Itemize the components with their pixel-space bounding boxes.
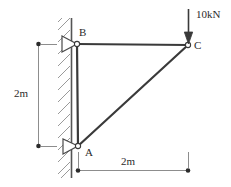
dimension-horizontal-label: 2m xyxy=(121,156,135,167)
load-arrow-10kn xyxy=(184,9,192,44)
truss-diagram-canvas: B C A 10kN 2m 2m xyxy=(0,0,231,187)
load-label: 10kN xyxy=(196,9,220,20)
dimension-vertical-label: 2m xyxy=(14,88,28,99)
dimension-horizontal-dot-right xyxy=(186,168,191,173)
member-diagonal xyxy=(78,45,188,146)
dimension-vertical xyxy=(36,42,57,149)
dimension-vertical-dot-top xyxy=(36,42,41,47)
joint-label-a: A xyxy=(85,147,93,158)
member-top-chord xyxy=(77,44,188,45)
joint-A xyxy=(75,143,80,148)
truss-diagram-svg xyxy=(0,0,231,187)
truss-members xyxy=(77,44,188,146)
joint-B xyxy=(74,41,79,46)
dimension-horizontal-dot-left xyxy=(76,168,81,173)
joint-label-b: B xyxy=(79,27,86,38)
load-arrow-head xyxy=(184,32,192,44)
dimension-vertical-dot-bottom xyxy=(36,144,41,149)
member-vertical xyxy=(77,44,78,146)
joint-label-c: C xyxy=(194,40,201,51)
